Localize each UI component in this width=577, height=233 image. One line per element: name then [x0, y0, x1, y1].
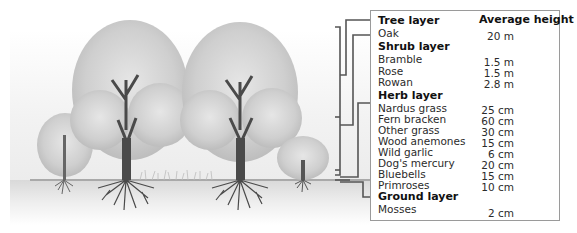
plant-name: Oak: [378, 27, 399, 39]
plant-name: Mosses: [378, 203, 416, 215]
layer-height-table: Average height Tree layer Oak 20 m Shrub…: [370, 10, 560, 221]
plant-height: 10 cm: [464, 181, 514, 193]
plant-height: 20 m: [464, 30, 514, 42]
layer-connector-lines: [335, 20, 372, 197]
plant-height: 2 cm: [464, 207, 514, 219]
plant-name: Bramble: [378, 53, 422, 65]
layer-heading-shrub: Shrub layer: [378, 41, 450, 53]
woodland-layers-diagram: Average height Tree layer Oak 20 m Shrub…: [0, 0, 577, 233]
grass-icon: [140, 170, 212, 180]
oak-tree-2-icon: [180, 22, 302, 210]
column-header-average-height: Average height: [479, 13, 574, 26]
oak-tree-1-icon: [70, 20, 192, 210]
plant-name: Rowan: [378, 76, 413, 88]
layer-heading-tree: Tree layer: [378, 15, 439, 27]
small-tree-right-icon: [277, 136, 329, 192]
layer-heading-ground: Ground layer: [378, 191, 458, 203]
plant-height: 2.8 m: [464, 78, 514, 90]
layer-heading-herb: Herb layer: [378, 90, 443, 102]
